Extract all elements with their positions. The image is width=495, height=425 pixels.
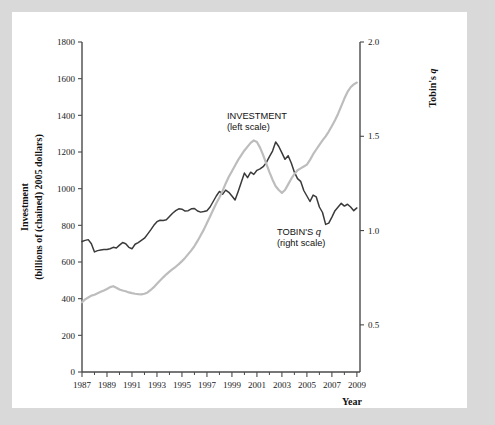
investment-tobins-q-chart: 0200400600800100012001400160018000.51.01… [12, 12, 467, 408]
right-axis-tick-label: 0.5 [368, 320, 380, 330]
tobins-q-annotation-line1: TOBIN'S q [277, 227, 322, 237]
x-axis-tick-label: 1993 [148, 380, 167, 390]
chart-canvas: 0200400600800100012001400160018000.51.01… [12, 12, 467, 408]
x-axis-tick-label: 1995 [173, 380, 192, 390]
left-axis-title-line2: (billions of (chained) 2005 dollars) [33, 134, 45, 280]
left-axis-tick-label: 1400 [57, 111, 76, 121]
right-axis-title-text: Tobin's q [427, 69, 438, 108]
right-axis-title: Tobin's q [427, 69, 438, 108]
figure-card: 0200400600800100012001400160018000.51.01… [12, 12, 467, 408]
x-axis-tick-label: 1999 [223, 380, 242, 390]
x-axis-tick-label: 2007 [323, 380, 342, 390]
investment-annotation-line2: (left scale) [227, 122, 270, 132]
left-axis-tick-label: 200 [62, 331, 76, 341]
left-axis-tick-label: 800 [62, 221, 76, 231]
right-axis-tick-label: 1.0 [368, 226, 380, 236]
left-axis-tick-label: 600 [62, 257, 76, 267]
left-axis-tick-label: 1200 [57, 147, 76, 157]
left-axis-title: Investment(billions of (chained) 2005 do… [19, 134, 45, 280]
tobins-q-annotation-line2: (right scale) [277, 238, 326, 248]
x-axis-tick-label: 1991 [123, 380, 141, 390]
x-axis-tick-label: 1987 [73, 380, 92, 390]
right-axis-tick-label: 2.0 [368, 37, 380, 47]
right-axis-title-q: q [427, 69, 438, 74]
left-axis-title-line1: Investment [19, 182, 30, 230]
investment-annotation-line1: INVESTMENT [227, 111, 287, 121]
left-axis-tick-label: 1800 [57, 37, 76, 47]
x-axis-tick-label: 1989 [98, 380, 117, 390]
x-axis-tick-label: 2009 [348, 380, 367, 390]
x-axis-title: Year [342, 396, 363, 407]
left-axis-tick-label: 1600 [57, 74, 76, 84]
x-axis-tick-label: 2005 [298, 380, 317, 390]
right-axis-tick-label: 1.5 [368, 131, 380, 141]
tobins-q-annotation-q: q [316, 227, 322, 237]
left-axis-tick-label: 0 [71, 367, 76, 377]
left-axis-tick-label: 400 [62, 294, 76, 304]
left-axis-tick-label: 1000 [57, 184, 76, 194]
x-axis-tick-label: 2003 [273, 380, 292, 390]
x-axis-tick-label: 1997 [198, 380, 217, 390]
x-axis-tick-label: 2001 [248, 380, 266, 390]
